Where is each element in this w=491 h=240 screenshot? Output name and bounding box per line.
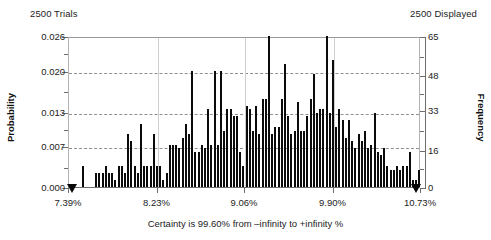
x-axis-tick <box>244 188 245 193</box>
y-left-tick-label: 0.020 <box>41 66 65 77</box>
histogram-bar <box>185 124 187 187</box>
histogram-bar <box>265 99 267 187</box>
histogram-bar <box>393 170 395 187</box>
histogram-bar <box>377 152 379 187</box>
y-left-tick-label: 0.000 <box>41 182 65 193</box>
histogram-bar <box>233 116 235 187</box>
histogram-bar <box>137 173 139 187</box>
histogram-bar <box>198 152 200 187</box>
frequency-chart: 2500 Trials 2500 Displayed Probability F… <box>0 0 491 240</box>
histogram-bar <box>290 134 292 187</box>
histogram-bar <box>172 145 174 187</box>
y-left-minor-tick <box>64 168 68 169</box>
histogram-bar <box>226 109 228 187</box>
y-left-minor-tick <box>64 54 68 55</box>
histogram-bar <box>140 124 142 187</box>
histogram-bar <box>390 170 392 187</box>
histogram-bar <box>121 166 123 187</box>
plot-area[interactable] <box>68 37 420 188</box>
histogram-bar <box>111 173 113 187</box>
histogram-bar <box>95 173 97 187</box>
histogram-bar <box>246 106 248 187</box>
x-axis-tick-label: 9.06% <box>214 197 274 208</box>
histogram-bar <box>239 152 241 187</box>
x-axis-tick-label: 10.73% <box>390 197 450 208</box>
x-axis-tick <box>333 188 334 193</box>
histogram-bar <box>242 166 244 187</box>
histogram-bar <box>348 120 350 187</box>
histogram-bar <box>169 145 171 187</box>
y-right-tick <box>420 37 426 38</box>
x-axis-tick-label: 8.23% <box>127 197 187 208</box>
histogram-bar <box>108 173 110 187</box>
histogram-bar <box>338 109 340 187</box>
grabber-left[interactable] <box>67 184 77 193</box>
histogram-bar <box>326 36 328 187</box>
y-right-minor-tick <box>420 57 424 58</box>
histogram-bar <box>217 145 219 187</box>
y-right-tick-label: 48 <box>428 70 439 81</box>
histogram-bar <box>361 141 363 187</box>
histogram-bar <box>143 166 145 187</box>
histogram-bar <box>105 166 107 187</box>
histogram-bar <box>409 152 411 187</box>
y-right-tick-label: 65 <box>428 31 439 42</box>
histogram-bar <box>329 113 331 187</box>
histogram-bar <box>114 180 116 187</box>
histogram-bar <box>380 155 382 187</box>
histogram-bar <box>316 113 318 187</box>
histogram-bar <box>127 134 129 187</box>
histogram-bar <box>281 99 283 187</box>
y-right-tick-label: 0 <box>428 182 433 193</box>
histogram-bar <box>274 127 276 187</box>
y-left-tick-label: 0.026 <box>41 31 65 42</box>
histogram-bar <box>214 71 216 187</box>
y-right-tick-label: 16 <box>428 145 439 156</box>
x-axis-tick-label: 9.90% <box>303 197 363 208</box>
histogram-bars <box>69 38 419 187</box>
x-axis-tick-label: 7.39% <box>38 197 98 208</box>
histogram-bar <box>399 170 401 187</box>
histogram-bar <box>175 145 177 187</box>
histogram-bar <box>102 173 104 187</box>
histogram-bar <box>297 102 299 187</box>
grabber-right[interactable] <box>411 184 421 193</box>
y-left-tick-label: 0.013 <box>41 107 65 118</box>
histogram-bar <box>118 166 120 187</box>
y-right-minor-tick <box>420 131 424 132</box>
histogram-bar <box>159 166 161 187</box>
histogram-bar <box>345 138 347 187</box>
histogram-bar <box>249 109 251 187</box>
histogram-bar <box>188 134 190 187</box>
histogram-bar <box>230 109 232 187</box>
histogram-bar <box>335 127 337 187</box>
histogram-bar <box>406 166 408 187</box>
histogram-bar <box>358 134 360 187</box>
histogram-bar <box>374 113 376 187</box>
histogram-bar <box>252 131 254 187</box>
y-right-tick <box>420 111 426 112</box>
histogram-bar <box>306 116 308 187</box>
histogram-bar <box>124 173 126 187</box>
histogram-bar <box>255 106 257 187</box>
histogram-bar <box>150 166 152 187</box>
histogram-bar <box>201 145 203 187</box>
displayed-count-label: 2500 Displayed <box>410 8 477 19</box>
histogram-bar <box>386 166 388 187</box>
histogram-bar <box>156 166 158 187</box>
histogram-bar <box>287 116 289 187</box>
histogram-bar <box>402 166 404 187</box>
histogram-bar <box>313 74 315 187</box>
histogram-bar <box>364 131 366 187</box>
histogram-bar <box>162 180 164 187</box>
histogram-bar <box>284 64 286 187</box>
y-right-minor-tick <box>420 169 424 170</box>
certainty-caption: Certainty is 99.60% from –infinity to +i… <box>0 218 491 229</box>
histogram-bar <box>191 71 193 187</box>
histogram-bar <box>383 148 385 187</box>
trials-count-label: 2500 Trials <box>30 8 78 19</box>
histogram-bar <box>166 173 168 187</box>
histogram-bar <box>82 166 84 187</box>
histogram-bar <box>134 166 136 187</box>
y-axis-left-title: Probability <box>5 87 16 149</box>
